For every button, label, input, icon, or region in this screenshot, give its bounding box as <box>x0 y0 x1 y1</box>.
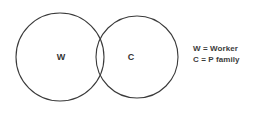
legend: W = Worker C = P family <box>193 43 263 65</box>
legend-entry-w: W = Worker <box>193 43 263 54</box>
circle-label-c: C <box>128 52 135 62</box>
circle-set-c <box>96 16 178 98</box>
venn-diagram-canvas: W C W = Worker C = P family <box>0 0 264 114</box>
legend-entry-c: C = P family <box>193 54 263 65</box>
circle-label-w: W <box>57 52 66 62</box>
